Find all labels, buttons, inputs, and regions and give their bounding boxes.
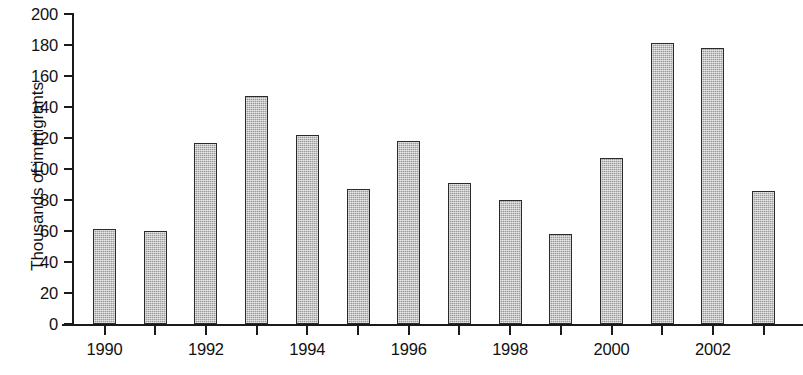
x-axis-tick <box>458 326 460 335</box>
x-axis-tick <box>661 326 663 335</box>
bar <box>194 143 217 324</box>
x-axis-tick-label: 1990 <box>87 341 123 358</box>
x-axis-tick-label: 2002 <box>695 341 731 358</box>
x-axis-tick-label: 1992 <box>188 341 224 358</box>
x-axis-line <box>62 324 803 326</box>
y-axis-tick-label: 80 <box>14 192 58 209</box>
x-axis-tick <box>205 326 207 335</box>
y-axis-tick-label: 140 <box>14 99 58 116</box>
y-axis-tick-label: 40 <box>14 254 58 271</box>
bar <box>397 141 420 324</box>
x-axis-tick <box>104 326 106 335</box>
bar <box>549 234 572 324</box>
y-axis-tick-label: 200 <box>14 6 58 23</box>
bar <box>600 158 623 324</box>
x-axis-tick-label: 2000 <box>594 341 630 358</box>
bar <box>499 200 522 324</box>
bar <box>296 135 319 324</box>
x-axis-tick <box>611 326 613 335</box>
y-axis-tick-label: 60 <box>14 223 58 240</box>
y-axis-tick-label: 160 <box>14 68 58 85</box>
y-axis-tick-label: 120 <box>14 130 58 147</box>
x-axis-tick <box>306 326 308 335</box>
x-axis-tick <box>408 326 410 335</box>
x-axis-tick <box>509 326 511 335</box>
bar <box>144 231 167 324</box>
bar <box>93 229 116 324</box>
y-axis-tick-label: 100 <box>14 161 58 178</box>
y-axis-tick-label: 180 <box>14 37 58 54</box>
x-axis-tick-label: 1996 <box>391 341 427 358</box>
bar <box>752 191 775 324</box>
chart-figure: Thousands of immigrants 2001801601401201… <box>0 0 803 375</box>
x-axis-tick <box>712 326 714 335</box>
plot-area <box>72 14 798 324</box>
bar <box>245 96 268 324</box>
bottom-caption-artifact <box>110 366 580 375</box>
bar <box>448 183 471 324</box>
x-axis-tick-label: 1994 <box>289 341 325 358</box>
x-axis-tick-label: 1998 <box>492 341 528 358</box>
x-axis-tick <box>560 326 562 335</box>
y-axis-tick-label: 0 <box>14 316 58 333</box>
bar <box>347 189 370 324</box>
x-axis-tick <box>357 326 359 335</box>
bar <box>651 43 674 324</box>
x-axis-tick <box>763 326 765 335</box>
x-axis-tick <box>154 326 156 335</box>
x-axis-tick <box>256 326 258 335</box>
y-axis-tick-label: 20 <box>14 285 58 302</box>
bar <box>701 48 724 324</box>
